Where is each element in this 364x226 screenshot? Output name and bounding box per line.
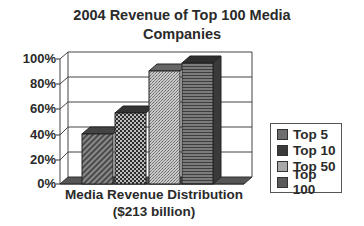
y-tick-80: 80% [14,76,56,91]
legend-item-top-100[interactable]: Top 100 [277,174,341,190]
y-tick-60: 60% [14,101,56,116]
y-tick-20: 20% [14,152,56,167]
legend-swatch-icon [277,177,288,188]
legend-swatch-icon [277,145,288,156]
bar-top-10[interactable] [115,106,154,184]
legend-swatch-icon [277,161,288,172]
y-tick-100: 100% [14,51,56,66]
x-axis-label: Media Revenue Distribution ($213 billion… [44,186,264,220]
legend-swatch-icon [277,129,288,140]
legend-label: Top 10 [293,143,336,158]
legend-item-top-10[interactable]: Top 10 [277,142,336,158]
legend: Top 5 Top 10 Top 50 Top 100 [270,123,342,193]
legend-item-top-5[interactable]: Top 5 [277,126,328,142]
bar-top-100[interactable] [182,56,221,184]
x-axis-label-line-1: Media Revenue Distribution [44,186,264,203]
x-axis-label-line-2: ($213 billion) [44,203,264,220]
legend-label: Top 100 [293,167,341,197]
y-tick-40: 40% [14,127,56,142]
legend-label: Top 5 [293,127,328,142]
